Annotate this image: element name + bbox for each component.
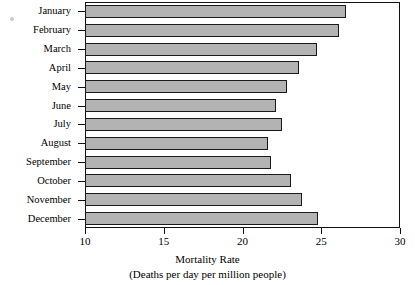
x-axis-tick-label-25: 25 [304,235,338,248]
x-axis-tick-25 [321,228,322,234]
x-axis-tick-label-15: 15 [147,235,181,248]
bar-december [85,212,318,225]
bars-layer [85,2,400,228]
y-axis-tick-august [78,143,85,144]
bar-november [85,193,302,206]
bar-march [85,43,317,56]
y-axis-category-labels: JanuaryFebruaryMarchAprilMayJuneJulyAugu… [0,2,85,228]
y-axis-label-january: January [38,5,71,17]
x-axis-tick-label-30: 30 [383,235,415,248]
mortality-rate-bar-chart: JanuaryFebruaryMarchAprilMayJuneJulyAugu… [0,0,415,285]
y-axis-tick-july [78,124,85,125]
bar-april [85,61,299,74]
x-axis-tick-20 [243,228,244,234]
y-axis-label-november: November [27,194,71,206]
x-axis-tick-15 [164,228,165,234]
y-axis-label-october: October [37,175,71,187]
x-axis-title-main: Mortality Rate [0,252,415,267]
y-axis-tick-april [78,68,85,69]
bar-june [85,99,276,112]
bar-february [85,24,339,37]
y-axis-tick-september [78,162,85,163]
y-axis-tick-june [78,106,85,107]
x-axis-tick-10 [85,228,86,234]
y-axis-tick-november [78,200,85,201]
y-axis-label-july: July [53,118,71,130]
bar-september [85,156,271,169]
x-axis-title-sub: (Deaths per day per million people) [0,267,415,282]
y-axis-tick-january [78,11,85,12]
bar-july [85,118,282,131]
y-axis-tick-february [78,30,85,31]
x-axis-tick-30 [400,228,401,234]
y-axis-tick-december [78,219,85,220]
x-axis-ticks: 1015202530 [85,228,400,254]
y-axis-label-april: April [49,62,71,74]
bar-january [85,5,346,18]
y-axis-label-february: February [33,24,71,36]
y-axis-tick-may [78,87,85,88]
bar-may [85,80,287,93]
x-axis-tick-label-10: 10 [68,235,102,248]
y-axis-tick-october [78,181,85,182]
bar-august [85,137,268,150]
x-axis-title: Mortality Rate (Deaths per day per milli… [0,252,415,281]
y-axis-label-march: March [44,43,71,55]
y-axis-label-may: May [52,81,71,93]
y-axis-label-december: December [28,213,71,225]
bar-october [85,174,291,187]
y-axis-label-august: August [41,137,71,149]
y-axis-tick-march [78,49,85,50]
y-axis-label-september: September [26,156,71,168]
y-axis-label-june: June [52,100,71,112]
x-axis-tick-label-20: 20 [226,235,260,248]
